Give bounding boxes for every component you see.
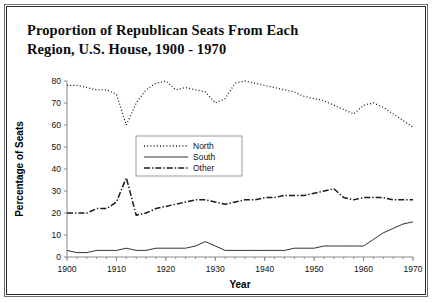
page-title-line-2: Region, U.S. House, 1900 - 1970: [27, 40, 397, 59]
legend-label-south: South: [193, 152, 215, 162]
x-axis-title: Year: [229, 279, 250, 290]
legend-label-north: North: [193, 141, 214, 151]
y-axis-tick-label: 80: [52, 76, 62, 86]
y-axis-tick-label: 60: [52, 120, 62, 130]
x-axis-tick-label: 1920: [156, 264, 175, 274]
y-axis-tick-label: 50: [52, 142, 62, 152]
chart-legend: NorthSouthOther: [136, 136, 242, 176]
y-axis-tick-label: 20: [52, 208, 62, 218]
line-chart: 0102030405060708019001910192019301940195…: [5, 61, 429, 299]
series-line-south: [67, 222, 413, 253]
y-axis-title: Percentage of Seats: [14, 121, 25, 217]
y-axis-tick-label: 70: [52, 98, 62, 108]
series-line-north: [67, 81, 413, 127]
y-axis-tick-label: 10: [52, 230, 62, 240]
legend-label-other: Other: [193, 163, 214, 173]
legend-box: [136, 136, 242, 176]
y-axis-tick-label: 30: [52, 186, 62, 196]
x-axis-tick-label: 1970: [404, 264, 423, 274]
x-axis-tick-label: 1940: [255, 264, 274, 274]
y-axis-tick-label: 0: [56, 252, 61, 262]
figure-frame: Proportion of Republican Seats From Each…: [4, 4, 428, 297]
x-axis-tick-label: 1900: [58, 264, 77, 274]
x-axis-tick-label: 1930: [206, 264, 225, 274]
series-line-other: [67, 178, 413, 215]
x-axis-tick-label: 1950: [305, 264, 324, 274]
y-axis-tick-label: 40: [52, 164, 62, 174]
x-axis-tick-label: 1960: [354, 264, 373, 274]
x-axis-tick-label: 1910: [107, 264, 126, 274]
page-title-line-1: Proportion of Republican Seats From Each: [27, 21, 397, 40]
page-title: Proportion of Republican Seats From Each…: [27, 21, 397, 59]
chart-plot-area: 0102030405060708019001910192019301940195…: [5, 61, 429, 299]
